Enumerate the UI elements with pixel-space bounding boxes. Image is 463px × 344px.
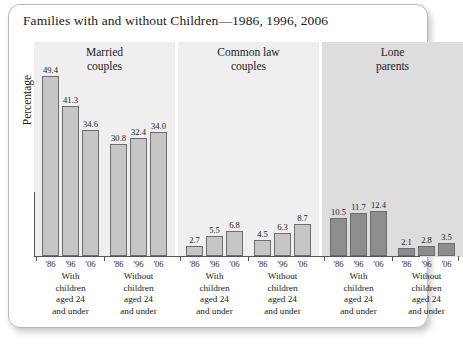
- subgroup-caption-line: children: [108, 283, 170, 295]
- bar: [294, 224, 311, 256]
- bar-value-label: 8.7: [288, 213, 318, 223]
- x-tick-label-year: '06: [291, 259, 315, 269]
- x-tick-label-year: '06: [367, 259, 391, 269]
- subgroup-caption-line: children: [396, 283, 458, 295]
- subgroup-caption: Withchildrenaged 24and under: [328, 271, 390, 317]
- subgroup-caption-line: aged 24: [108, 294, 170, 306]
- subgroup-caption-line: and under: [184, 306, 246, 318]
- bar: [254, 240, 271, 256]
- subgroup-caption-line: children: [184, 283, 246, 295]
- bar: [350, 213, 367, 256]
- bar: [438, 243, 455, 256]
- bar-value-label: 2.7: [180, 235, 210, 245]
- subgroup-caption-line: aged 24: [40, 294, 102, 306]
- subgroup-caption-line: aged 24: [328, 294, 390, 306]
- bar-value-label: 49.4: [36, 65, 66, 75]
- subgroup-caption: Withoutchildrenaged 24and under: [252, 271, 314, 317]
- subgroup-caption-line: children: [328, 283, 390, 295]
- bar-value-label: 34.6: [76, 119, 106, 129]
- y-axis-line: [34, 192, 35, 257]
- subgroup-caption: Withchildrenaged 24and under: [184, 271, 246, 317]
- bar: [82, 130, 99, 256]
- x-tick-label-year: '06: [147, 259, 171, 269]
- x-tick-label-year: '06: [79, 259, 103, 269]
- subgroup-caption: Withchildrenaged 24and under: [40, 271, 102, 317]
- bar-value-label: 12.4: [364, 200, 394, 210]
- bar-value-label: 6.8: [220, 220, 250, 230]
- subgroup-caption-line: With: [184, 271, 246, 283]
- bar: [206, 236, 223, 256]
- x-axis-line: [34, 256, 420, 257]
- subgroup-caption-line: and under: [328, 306, 390, 318]
- x-tick-label-year: '06: [223, 259, 247, 269]
- bar: [274, 233, 291, 256]
- bar: [186, 246, 203, 256]
- subgroup-caption-line: and under: [252, 306, 314, 318]
- subgroup-caption-line: With: [40, 271, 102, 283]
- subgroup-caption-line: and under: [396, 306, 458, 318]
- x-tick-label-year: '06: [435, 259, 459, 269]
- bar-value-label: 6.3: [268, 222, 298, 232]
- bar: [330, 218, 347, 256]
- bar: [398, 248, 415, 256]
- subgroup-caption-line: children: [40, 283, 102, 295]
- bar: [110, 144, 127, 256]
- subgroup-caption-line: Without: [252, 271, 314, 283]
- plot-area: 49.441.334.630.832.434.02.75.56.84.56.38…: [34, 42, 420, 257]
- bar: [150, 132, 167, 256]
- bar-value-label: 34.0: [144, 121, 174, 131]
- bar: [130, 138, 147, 256]
- subgroup-caption: Withoutchildrenaged 24and under: [108, 271, 170, 317]
- subgroup-caption-line: aged 24: [252, 294, 314, 306]
- subgroup-caption-line: aged 24: [184, 294, 246, 306]
- bar-value-label: 41.3: [56, 95, 86, 105]
- bar: [370, 211, 387, 256]
- subgroup-caption-line: Without: [396, 271, 458, 283]
- bar: [226, 231, 243, 256]
- subgroup-caption-line: children: [252, 283, 314, 295]
- bar: [418, 246, 435, 256]
- chart-title: Families with and without Children—1986,…: [23, 13, 328, 29]
- subgroup-caption-line: and under: [108, 306, 170, 318]
- subgroup-caption-line: and under: [40, 306, 102, 318]
- subgroup-caption-line: Without: [108, 271, 170, 283]
- y-axis-label-text: Percentage: [21, 40, 33, 160]
- chart-card: Families with and without Children—1986,…: [8, 4, 428, 328]
- subgroup-caption: Withoutchildrenaged 24and under: [396, 271, 458, 317]
- subgroup-caption-line: aged 24: [396, 294, 458, 306]
- bar-value-label: 3.5: [432, 232, 462, 242]
- subgroup-caption-line: With: [328, 271, 390, 283]
